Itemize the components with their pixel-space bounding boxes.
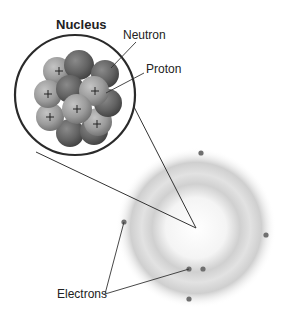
- nucleus-label: Nucleus: [56, 17, 107, 32]
- atom-diagram: [0, 0, 288, 324]
- proton-label: Proton: [146, 62, 181, 76]
- electron: [198, 150, 203, 155]
- neutron-label: Neutron: [123, 28, 166, 42]
- electron: [263, 232, 268, 237]
- electron: [186, 296, 191, 301]
- electron: [200, 266, 205, 271]
- electrons-label: Electrons: [57, 287, 107, 301]
